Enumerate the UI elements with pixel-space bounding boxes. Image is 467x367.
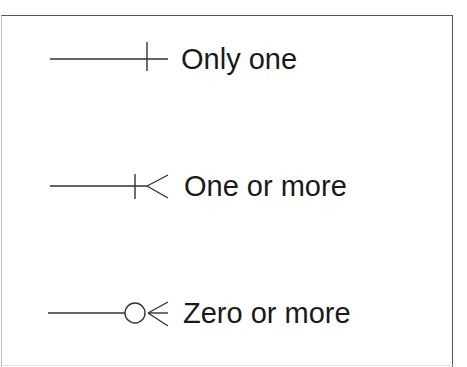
only-one-icon <box>50 42 168 71</box>
zero-or-more-label: Zero or more <box>183 299 351 328</box>
one-or-more-icon <box>50 174 168 199</box>
one-or-more-label: One or more <box>184 172 347 201</box>
only-one-label: Only one <box>181 45 297 74</box>
zero-or-more-icon <box>48 302 168 326</box>
